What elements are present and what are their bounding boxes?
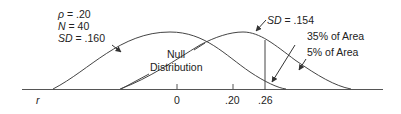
null-label-line1: Null bbox=[167, 48, 185, 60]
sd-alt-label: SD = .154 bbox=[267, 14, 314, 26]
area-35-label: 35% of Area bbox=[307, 30, 364, 42]
rho-label: ρ = .20 bbox=[58, 8, 91, 20]
axis-label-r: r bbox=[36, 94, 40, 106]
area-5-label: 5% of Area bbox=[307, 46, 358, 58]
sd-null-label: SD = .160 bbox=[58, 32, 105, 44]
power-diagram: ρ = .20 N = 40 SD = .160 Null Distributi… bbox=[0, 0, 401, 114]
arrow-null-label bbox=[121, 74, 149, 89]
arrow-35-area bbox=[272, 45, 295, 82]
arrow-sd-154 bbox=[256, 20, 266, 31]
tick-label-0: 0 bbox=[174, 94, 180, 106]
tick-label-26: .26 bbox=[258, 94, 273, 106]
tick-label-20: .20 bbox=[225, 94, 240, 106]
n-label: N = 40 bbox=[58, 20, 89, 32]
arrow-5-area bbox=[299, 59, 306, 70]
arrow-null-label-top bbox=[194, 43, 205, 50]
null-label-line2: Distribution bbox=[150, 61, 203, 73]
